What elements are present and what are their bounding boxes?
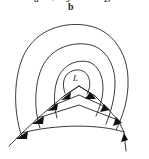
arrowhead-left-1 [61,92,71,100]
loop-label-L: L [72,73,78,83]
field-line-4 [22,126,124,133]
figure-root: a + s B b [0,0,149,159]
arrowhead-right-4 [121,133,128,142]
diagram-canvas: L [0,0,149,159]
arrowhead-left-3 [32,116,44,124]
outer-contour [16,24,129,137]
